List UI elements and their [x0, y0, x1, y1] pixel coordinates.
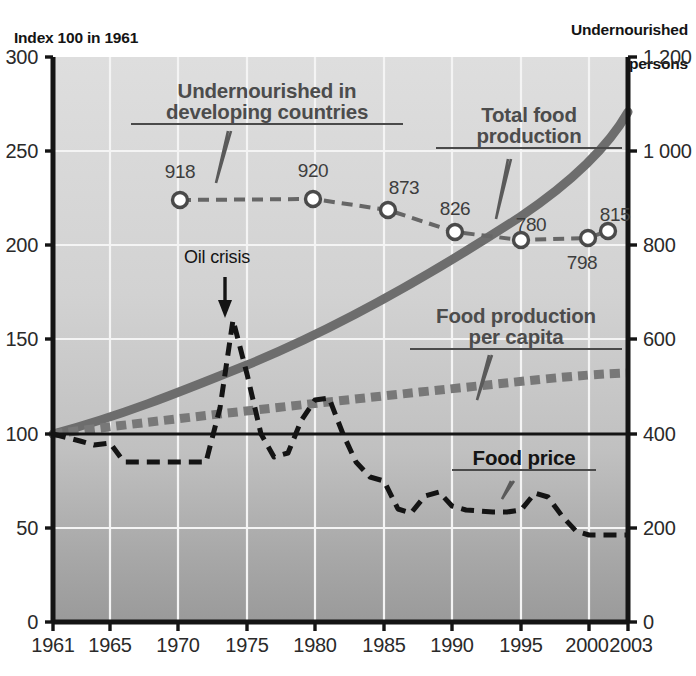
annotation-total-food-line2: production — [476, 124, 581, 147]
point-label-815: 815 — [585, 205, 645, 224]
right-tick-1000: 1 000 — [643, 141, 696, 161]
right-tick-200: 200 — [643, 518, 696, 538]
data-point-2002 — [601, 224, 616, 239]
annotation-total-food-label: Total food production — [436, 104, 622, 149]
point-label-873: 873 — [374, 178, 434, 197]
annotation-underline — [436, 147, 622, 149]
data-point-1985 — [381, 203, 396, 218]
chart-container: Index 100 in 1961 Undernourished in mill… — [0, 0, 696, 676]
annotation-underline — [452, 469, 596, 471]
data-point-1990 — [448, 225, 463, 240]
point-label-918: 918 — [150, 162, 210, 181]
left-tick-200: 200 — [0, 235, 38, 255]
data-point-1970 — [173, 193, 188, 208]
annotation-undernourished-line1: Undernourished in — [178, 79, 357, 102]
annotation-undernourished-line2: developing countries — [166, 100, 368, 123]
right-tick-600: 600 — [643, 329, 696, 349]
left-tick-50: 50 — [0, 518, 38, 538]
left-tick-0: 0 — [0, 612, 38, 632]
right-tick-400: 400 — [643, 424, 696, 444]
left-tick-100: 100 — [0, 424, 38, 444]
point-label-826: 826 — [425, 199, 485, 218]
x-tick-1970: 1970 — [138, 635, 218, 655]
annotation-food-price-label: Food price — [452, 447, 596, 471]
point-label-798: 798 — [552, 253, 612, 272]
x-tick-1980: 1980 — [275, 635, 355, 655]
annotation-underline — [131, 123, 403, 125]
annotation-per-capita-label: Food production per capita — [410, 305, 622, 350]
annotation-per-capita-line2: per capita — [469, 325, 564, 348]
annotation-total-food-line1: Total food — [481, 103, 577, 126]
right-tick-800: 800 — [643, 235, 696, 255]
annotation-food-price-text: Food price — [473, 446, 576, 469]
left-tick-150: 150 — [0, 329, 38, 349]
data-point-2000 — [581, 231, 596, 246]
annotation-undernourished-label: Undernourished in developing countries — [131, 80, 403, 125]
annotation-oil-crisis-label: Oil crisis — [184, 247, 250, 268]
point-label-920: 920 — [283, 161, 343, 180]
x-tick-2003: 2003 — [591, 635, 671, 655]
x-tick-1990: 1990 — [412, 635, 492, 655]
right-tick-1200: 1 200 — [643, 47, 696, 67]
data-point-1980 — [306, 192, 321, 207]
annotation-per-capita-line1: Food production — [436, 304, 596, 327]
point-label-780: 780 — [501, 215, 561, 234]
right-tick-0: 0 — [643, 612, 696, 632]
annotation-underline — [410, 348, 622, 350]
left-tick-300: 300 — [0, 47, 38, 67]
left-tick-250: 250 — [0, 141, 38, 161]
